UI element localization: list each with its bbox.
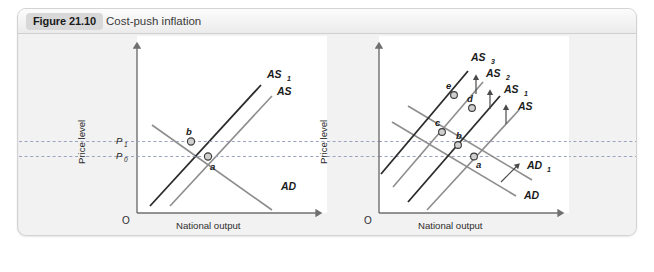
chart-b-origin-label: O: [364, 215, 372, 226]
chart-b-point-label-c: c: [435, 117, 441, 128]
chart-b-curve-label-as: AS: [517, 100, 533, 112]
chart-a-point-b-marker: [187, 138, 194, 145]
chart-a-panel-letter: (a): [176, 233, 188, 235]
chart-a-point-a-marker: [204, 153, 211, 160]
figure-header: Figure 21.10 Cost-push inflation: [18, 9, 636, 34]
chart-b-x-axis-label: National output: [418, 220, 483, 231]
chart-a-curve-label-ad: AD: [280, 180, 297, 192]
chart-a-curve-label-as: AS: [276, 85, 292, 97]
chart-a-curve-label-as1: AS: [266, 68, 282, 80]
chart-a-y-axis-label: Price level: [76, 120, 87, 164]
chart-b-curve-label-as3: AS: [470, 51, 486, 63]
chart-b-point-label-d: d: [467, 93, 473, 104]
chart-b-panel-letter: (b): [407, 233, 419, 235]
chart-b-point-label-a: a: [476, 159, 481, 170]
chart-b-curve-label-ad1-sub: 1: [547, 166, 551, 173]
chart-b-point-d-marker: [469, 105, 476, 112]
chart-b-curve-label-as2-sub: 2: [505, 74, 510, 81]
chart-b-point-b-marker: [455, 142, 462, 149]
figure-title: Cost-push inflation: [106, 13, 201, 30]
chart-b-point-label-e: e: [446, 80, 452, 91]
figure-container: Figure 21.10 Cost-push inflation: [17, 8, 637, 236]
chart-b-curve-label-as1: AS: [503, 83, 519, 95]
chart-b-curve-label-as2: AS: [485, 67, 501, 79]
chart-b-point-label-b: b: [456, 130, 462, 141]
chart-a-ytick-p1: P: [116, 135, 123, 146]
chart-a-ytick-p0-sub: 0: [124, 156, 128, 163]
chart-b-y-axis-label: Price level: [318, 120, 329, 164]
chart-a-curve-label-as1-sub: 1: [287, 75, 291, 82]
chart-a-origin-label: O: [122, 215, 130, 226]
chart-b-curve-label-as1-sub: 1: [524, 90, 528, 97]
plot-surface: b a AS 1 AS AD P 1 P 0 Price level O Nat…: [19, 34, 636, 235]
figure-svg: b a AS 1 AS AD P 1 P 0 Price level O Nat…: [19, 34, 636, 235]
chart-a-ytick-p0: P: [116, 150, 123, 161]
chart-b-curve-label-as3-sub: 3: [491, 58, 495, 65]
chart-panel-b: e d c b a AS 3 AS 2 AS 1 AS AD 1 AD Pric…: [318, 36, 569, 235]
chart-a-panel-title: Initial effect: [198, 233, 247, 235]
chart-a-plot-background: [137, 36, 327, 213]
chart-b-curve-label-ad1: AD: [526, 159, 543, 171]
figure-number-badge: Figure 21.10: [26, 13, 103, 30]
chart-b-panel-title: Subsequent effects: [429, 233, 511, 235]
chart-b-curve-label-ad: AD: [523, 189, 540, 201]
chart-a-ytick-p1-sub: 1: [124, 141, 128, 148]
chart-a-x-axis-label: National output: [176, 220, 241, 231]
chart-b-point-c-marker: [439, 129, 446, 136]
chart-a-point-label-b: b: [186, 126, 192, 137]
chart-b-point-e-marker: [451, 92, 458, 99]
chart-a-point-label-a: a: [210, 161, 215, 172]
